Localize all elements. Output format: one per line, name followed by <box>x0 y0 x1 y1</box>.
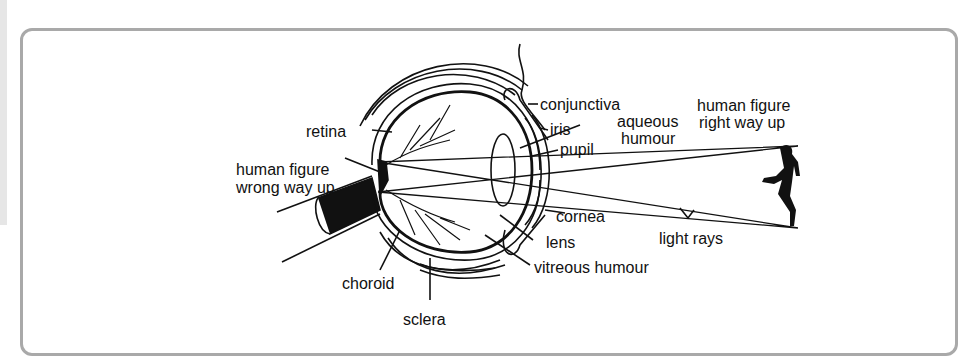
label-aqueous-1: aqueous <box>617 113 678 130</box>
label-retina: retina <box>306 123 346 140</box>
label-aqueous-2: humour <box>621 130 676 147</box>
label-human-figure-wrong-2: wrong way up <box>235 179 335 196</box>
human-figure-upright-icon <box>762 145 800 226</box>
label-lens: lens <box>546 234 575 251</box>
label-iris: iris <box>550 121 570 138</box>
label-human-figure-right-2: right way up <box>699 114 785 131</box>
label-vitreous-humour: vitreous humour <box>534 259 649 276</box>
label-pupil: pupil <box>560 141 594 158</box>
label-human-figure-right-1: human figure <box>697 97 790 114</box>
label-conjunctiva: conjunctiva <box>540 96 620 113</box>
label-cornea: cornea <box>556 208 605 225</box>
label-light-rays: light rays <box>659 230 723 247</box>
label-choroid: choroid <box>342 275 394 292</box>
label-human-figure-wrong-1: human figure <box>236 161 329 178</box>
label-sclera: sclera <box>403 311 446 328</box>
eye-diagram: retina human figure wrong way up choroid… <box>0 0 976 364</box>
